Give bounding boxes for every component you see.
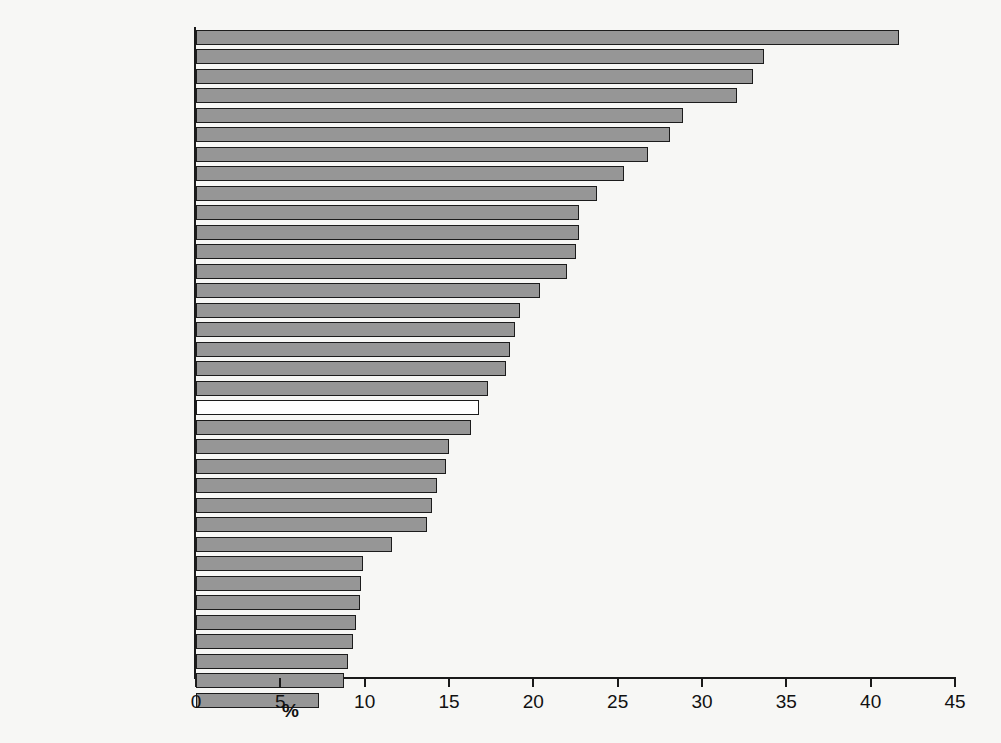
bar-czech-republic bbox=[196, 361, 506, 376]
bar-norway bbox=[196, 615, 356, 630]
bar-luxembourg bbox=[196, 478, 437, 493]
x-tick bbox=[279, 678, 281, 687]
bar-japan bbox=[196, 634, 353, 649]
bar-row: Sweden bbox=[196, 165, 955, 185]
bar-iceland bbox=[196, 420, 471, 435]
bar-oecd bbox=[196, 400, 479, 415]
bar-greece bbox=[196, 69, 753, 84]
bar-slovak-republic bbox=[196, 49, 764, 64]
bar-france bbox=[196, 205, 579, 220]
bar-estonia bbox=[196, 88, 737, 103]
bar-row: Poland bbox=[196, 184, 955, 204]
bar-chart: SpainSlovak RepublicGreeceEstoniaIreland… bbox=[0, 0, 1001, 743]
bar-row: Japan bbox=[196, 633, 955, 653]
x-tick bbox=[195, 678, 197, 687]
bar-row: Spain bbox=[196, 28, 955, 48]
bar-row: Mexico bbox=[196, 594, 955, 614]
bar-row: Chile bbox=[196, 321, 955, 341]
bar-row: Israel bbox=[196, 516, 955, 536]
bar-spain bbox=[196, 30, 899, 45]
bar-row: Belgium bbox=[196, 223, 955, 243]
bar-canada bbox=[196, 439, 449, 454]
bar-portugal bbox=[196, 244, 576, 259]
x-tick bbox=[785, 678, 787, 687]
bar-row: Estonia bbox=[196, 87, 955, 107]
x-tick bbox=[532, 678, 534, 687]
bar-australia bbox=[196, 537, 392, 552]
plot-area: SpainSlovak RepublicGreeceEstoniaIreland… bbox=[196, 28, 955, 678]
bar-row: United Kingdom bbox=[196, 301, 955, 321]
bar-korea-rep bbox=[196, 556, 363, 571]
bar-row: Slovak Republic bbox=[196, 48, 955, 68]
bar-row: Canada bbox=[196, 438, 955, 458]
bar-row: Slovenia bbox=[196, 457, 955, 477]
x-tick bbox=[617, 678, 619, 687]
bar-row: Portugal bbox=[196, 243, 955, 263]
bar-row: United States bbox=[196, 340, 955, 360]
bar-hungary bbox=[196, 147, 648, 162]
bar-row: Hungary bbox=[196, 145, 955, 165]
x-tick bbox=[870, 678, 872, 687]
bar-row: Greece bbox=[196, 67, 955, 87]
x-tick bbox=[448, 678, 450, 687]
bar-row: France bbox=[196, 204, 955, 224]
bar-belgium bbox=[196, 225, 579, 240]
bar-united-states bbox=[196, 342, 510, 357]
bar-germany bbox=[196, 576, 361, 591]
bar-united-kingdom bbox=[196, 303, 520, 318]
bar-row: Korea, Rep. bbox=[196, 555, 955, 575]
bar-austria bbox=[196, 654, 348, 669]
bar-netherlands bbox=[196, 673, 344, 688]
bar-italy bbox=[196, 127, 670, 142]
bar-row: OECD bbox=[196, 399, 955, 419]
x-tick bbox=[701, 678, 703, 687]
bar-row: Czech Republic bbox=[196, 360, 955, 380]
bar-new-zealand bbox=[196, 381, 488, 396]
bar-row: Denmark bbox=[196, 496, 955, 516]
bar-denmark bbox=[196, 498, 432, 513]
x-axis-title-text: % bbox=[282, 700, 299, 722]
bar-row: Turkey bbox=[196, 262, 955, 282]
bar-finland bbox=[196, 283, 540, 298]
bar-chile bbox=[196, 322, 515, 337]
bar-row: Ireland bbox=[196, 106, 955, 126]
bar-turkey bbox=[196, 264, 567, 279]
bar-israel bbox=[196, 517, 427, 532]
bar-sweden bbox=[196, 166, 624, 181]
x-axis-title: % bbox=[0, 700, 1001, 722]
x-tick bbox=[954, 678, 956, 687]
bar-row: Austria bbox=[196, 652, 955, 672]
bar-row: Iceland bbox=[196, 418, 955, 438]
bar-mexico bbox=[196, 595, 360, 610]
bar-row: Australia bbox=[196, 535, 955, 555]
bar-slovenia bbox=[196, 459, 446, 474]
bar-row: New Zealand bbox=[196, 379, 955, 399]
bar-ireland bbox=[196, 108, 683, 123]
bar-row: Italy bbox=[196, 126, 955, 146]
bar-row: Finland bbox=[196, 282, 955, 302]
bar-poland bbox=[196, 186, 597, 201]
bar-row: Norway bbox=[196, 613, 955, 633]
bar-row: Germany bbox=[196, 574, 955, 594]
bar-row: Luxembourg bbox=[196, 477, 955, 497]
x-tick bbox=[364, 678, 366, 687]
bar-row: Netherlands bbox=[196, 672, 955, 692]
